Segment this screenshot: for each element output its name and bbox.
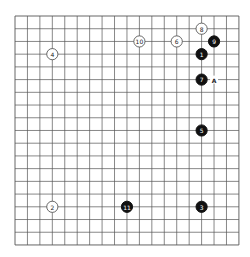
marker-label: A (212, 77, 217, 84)
move-number: 1 (200, 51, 204, 58)
black-stone-5: 5 (196, 125, 207, 136)
move-number: 4 (50, 51, 54, 58)
move-number: 9 (212, 38, 216, 45)
white-stone-4: 4 (47, 49, 58, 60)
move-number: 6 (175, 38, 179, 45)
black-stone-11: 11 (121, 201, 132, 212)
move-number: 8 (200, 26, 204, 33)
white-stone-6: 6 (171, 36, 182, 47)
black-stone-3: 3 (196, 201, 207, 212)
move-number: 11 (123, 204, 131, 211)
go-board-diagram: A 1234567891011 (0, 0, 250, 257)
black-stone-7: 7 (196, 74, 207, 85)
move-number: 7 (200, 76, 204, 83)
white-stone-8: 8 (196, 23, 207, 34)
board-markers: A (210, 76, 218, 84)
black-stone-9: 9 (208, 36, 219, 47)
move-number: 5 (200, 127, 204, 134)
white-stone-2: 2 (47, 201, 58, 212)
move-number: 2 (50, 204, 54, 211)
white-stone-10: 10 (134, 36, 145, 47)
point-marker-a: A (210, 76, 218, 84)
move-number: 10 (136, 38, 144, 45)
move-number: 3 (200, 204, 204, 211)
black-stone-1: 1 (196, 49, 207, 60)
